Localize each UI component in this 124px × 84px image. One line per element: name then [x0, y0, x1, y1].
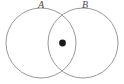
intersection-point-marker — [59, 40, 66, 47]
circle-a-label: A — [38, 0, 44, 10]
circle-b-outline — [48, 8, 118, 78]
circle-b-label: B — [82, 0, 88, 10]
venn-diagram-canvas — [0, 0, 124, 84]
venn-diagram-figure: A B — [0, 0, 124, 84]
